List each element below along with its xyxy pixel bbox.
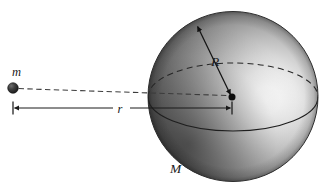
label-point-mass-m: m <box>12 65 21 79</box>
label-sphere-radius-R: R <box>210 54 220 69</box>
point-mass-m <box>8 83 19 94</box>
diagram-canvas: m r R M <box>0 0 328 190</box>
label-separation-r: r <box>118 102 123 116</box>
sphere-centre-dot <box>229 94 236 101</box>
physics-diagram-figure: m r R M <box>0 0 328 190</box>
label-sphere-mass-M: M <box>169 161 182 176</box>
